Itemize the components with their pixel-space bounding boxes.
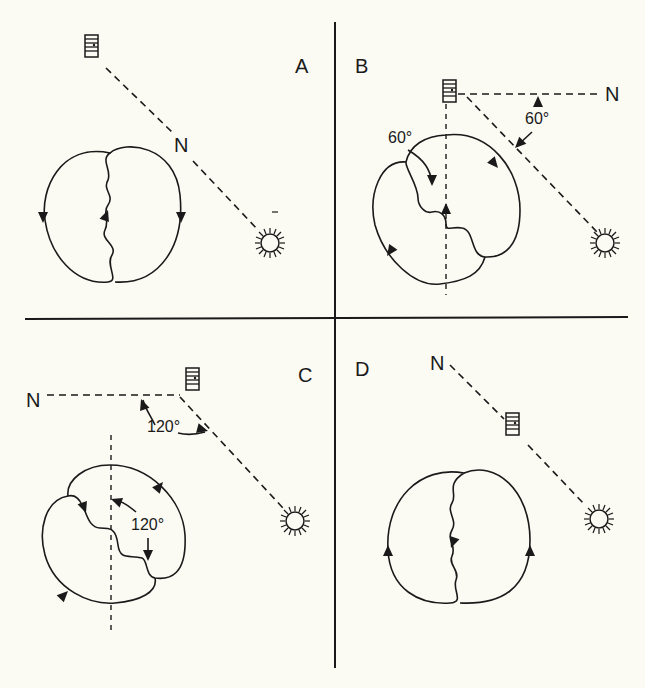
panel-b: B N 60° 60° (355, 55, 620, 295)
sun-icon (584, 504, 614, 534)
hive-icon (186, 368, 199, 390)
panel-label-d: D (355, 358, 369, 380)
panel-a: A N (38, 35, 309, 282)
panel-d: D N (355, 352, 614, 603)
hive-icon (443, 80, 456, 102)
hive-icon (506, 413, 519, 435)
north-label-a: N (174, 134, 188, 156)
waggle-dance-figure: A N B N 60° 60° C (0, 0, 645, 688)
north-label-d: N (430, 352, 444, 374)
angle-label-b-inner: 60° (388, 129, 412, 146)
sun-icon (255, 228, 285, 258)
angle-label-c-inner: 120° (131, 516, 164, 533)
panel-label-b: B (355, 55, 368, 77)
sun-icon (280, 506, 310, 536)
panel-c: C N 120° 120° (26, 364, 312, 630)
panel-label-a: A (295, 55, 309, 77)
panel-label-c: C (298, 364, 312, 386)
sun-icon (590, 228, 620, 258)
hive-icon (85, 35, 98, 57)
angle-label-b-outer: 60° (525, 110, 549, 127)
north-label-c: N (26, 389, 40, 411)
north-label-b: N (605, 83, 619, 105)
horizontal-divider (25, 317, 628, 319)
